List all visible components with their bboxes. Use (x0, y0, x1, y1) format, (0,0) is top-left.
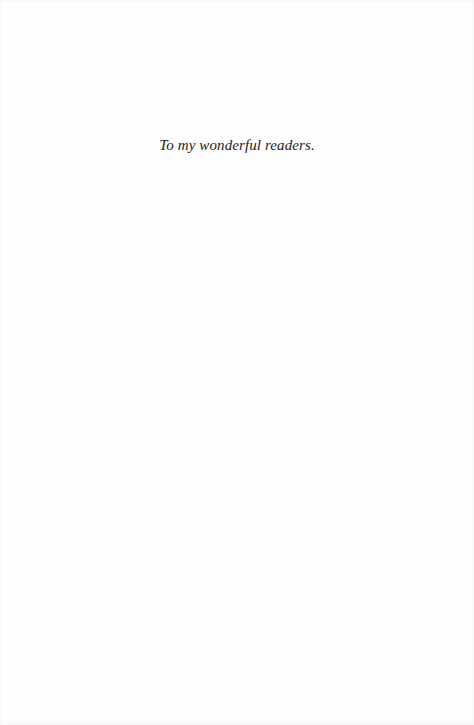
book-page: To my wonderful readers. (0, 0, 474, 725)
dedication-text: To my wonderful readers. (0, 137, 474, 154)
